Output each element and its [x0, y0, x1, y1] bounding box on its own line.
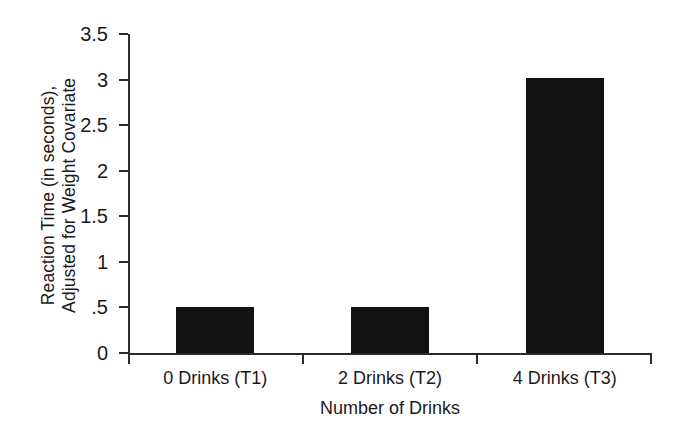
y-axis-tick-label: 2.5 [52, 115, 108, 135]
y-axis-tick-mark [119, 33, 128, 35]
x-axis-tick-mark [476, 353, 478, 364]
y-axis-tick-mark [119, 306, 128, 308]
bar [351, 307, 429, 353]
y-axis-tick-label-text: .5 [52, 297, 108, 317]
x-axis-line [128, 353, 652, 355]
y-axis-tick-mark [119, 124, 128, 126]
y-axis-tick-mark [119, 352, 128, 354]
x-axis-title: Number of Drinks [128, 396, 652, 420]
y-axis-tick-mark [119, 261, 128, 263]
y-axis-title: Reaction Time (in seconds), Adjusted for… [14, 0, 106, 390]
y-axis-tick-mark [119, 215, 128, 217]
y-axis-tick-label: 3 [52, 70, 108, 90]
y-axis-tick-label-text: 3.5 [52, 24, 108, 44]
plot-area: 0.511.522.533.5 [128, 34, 652, 355]
x-axis-category-label: 2 Drinks (T2) [303, 366, 478, 390]
y-axis-tick-label-text: 1.5 [52, 206, 108, 226]
y-axis-tick-label: 1 [52, 252, 108, 272]
x-axis-category-label: 0 Drinks (T1) [128, 366, 303, 390]
y-axis-tick-label-text: 2.5 [52, 115, 108, 135]
x-axis-category-label: 4 Drinks (T3) [477, 366, 652, 390]
y-axis-tick-label-text: 3 [52, 70, 108, 90]
y-axis-tick-label: 3.5 [52, 24, 108, 44]
bar [176, 307, 254, 353]
y-axis-tick-label: .5 [52, 297, 108, 317]
bar [526, 78, 604, 353]
y-axis-tick-mark [119, 79, 128, 81]
x-axis-tick-mark [302, 353, 304, 364]
x-axis-tick-mark [128, 353, 130, 364]
y-axis-tick-label-text: 1 [52, 252, 108, 272]
y-axis-title-line-1: Reaction Time (in seconds), [39, 77, 60, 312]
y-axis-line [128, 34, 130, 355]
x-axis-tick-mark [650, 353, 652, 364]
y-axis-tick-label-text: 2 [52, 161, 108, 181]
y-axis-tick-mark [119, 170, 128, 172]
x-axis-category-labels: 0 Drinks (T1)2 Drinks (T2)4 Drinks (T3) [128, 366, 652, 392]
y-axis-tick-label: 0 [52, 343, 108, 363]
y-axis-tick-label-text: 0 [52, 343, 108, 363]
bar-chart-figure: Reaction Time (in seconds), Adjusted for… [0, 0, 679, 442]
y-axis-title-line-2: Adjusted for Weight Covariate [60, 77, 81, 312]
y-axis-tick-label: 2 [52, 161, 108, 181]
y-axis-tick-label: 1.5 [52, 206, 108, 226]
